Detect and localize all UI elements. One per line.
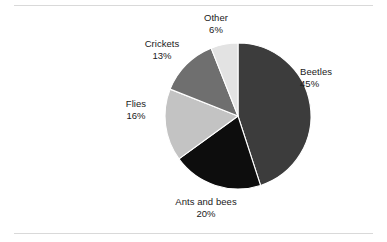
slice-label-ants-and-bees-name: Ants and bees — [148, 196, 264, 208]
slice-label-other-value: 6% — [180, 24, 252, 36]
slice-label-flies-value: 16% — [104, 110, 168, 122]
slice-label-ants-and-bees: Ants and bees 20% — [148, 196, 264, 219]
slice-label-flies: Flies 16% — [104, 98, 168, 121]
slice-label-flies-name: Flies — [104, 98, 168, 110]
slice-label-other-name: Other — [180, 12, 252, 24]
slice-label-beetles-name: Beetles — [300, 66, 372, 78]
slice-label-crickets: Crickets 13% — [124, 38, 200, 61]
slice-label-crickets-name: Crickets — [124, 38, 200, 50]
slice-label-beetles-value: 45% — [300, 78, 372, 90]
slice-label-other: Other 6% — [180, 12, 252, 35]
pie-chart-figure: Beetles 45% Ants and bees 20% Flies 16% … — [0, 0, 387, 242]
slice-label-beetles: Beetles 45% — [300, 66, 372, 89]
pie-slices-group — [165, 43, 311, 189]
slice-label-ants-and-bees-value: 20% — [148, 208, 264, 220]
slice-label-crickets-value: 13% — [124, 50, 200, 62]
